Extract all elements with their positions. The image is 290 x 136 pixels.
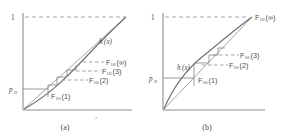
panel-a-curve-label: h (x) — [99, 38, 113, 46]
panel-b-f-three-arg: (3) — [251, 51, 260, 60]
panel-b-annotation-f-two: F 10 (2) — [229, 61, 248, 71]
panel-b-y-top-label: 1 — [151, 14, 155, 22]
panel-b-p0-sub: 0 — [154, 79, 157, 84]
panel-b-f-infinity-arg: (∞) — [266, 13, 276, 22]
panel-a-f-two-arg: (2) — [100, 76, 109, 85]
panel-b-curve-label-base: h — [177, 64, 181, 72]
panel-a-annotation-f-two: F 10 (2) — [89, 76, 108, 86]
panel-a-p0-sub: 0 — [14, 90, 17, 95]
panel-a-caption: (a) — [61, 123, 70, 132]
cobweb-figure-svg: 1 p 0 h (x) F 10 (∞) F 10 (3) — [0, 0, 290, 136]
panel-b-caption: (b) — [202, 123, 212, 132]
panel-b-f-infinity-sub: 10 — [260, 17, 266, 22]
panel-a-y-top-label: 1 — [11, 14, 15, 22]
panel-b-f-one-arg: (1) — [209, 76, 218, 85]
panel-a-p0-label: p 0 — [8, 86, 17, 95]
panel-b-f-one-sub: 10 — [203, 80, 209, 85]
panel-a-f-three-arg: (3) — [113, 67, 122, 76]
panel-a-annotation-f-one: F 10 (1) — [51, 92, 70, 102]
panel-a-f-infinity-arg: (∞) — [117, 58, 127, 67]
panel-b-p0-base: p — [148, 75, 153, 83]
panel-b-annotation-f-one: F 10 (1) — [198, 76, 217, 86]
panel-a-curve-label-base: h — [99, 38, 103, 46]
panel-a-curve-label-arg: (x) — [104, 38, 113, 46]
panel-b-f-two-arg: (2) — [240, 61, 249, 70]
panel-a-f-two-sub: 10 — [94, 80, 100, 85]
panel-a-f-one-sub: 10 — [56, 96, 62, 101]
panel-b-annotation-f-three: F 10 (3) — [240, 51, 259, 61]
panel-a-p0-base: p — [8, 86, 13, 94]
panel-b-p0-label: p 0 — [148, 75, 157, 84]
panel-a-f-one-arg: (1) — [62, 92, 71, 101]
panel-b: 1 p 0 h (x) F 10 (∞) F 10 (3) — [148, 13, 275, 133]
panel-b-curve-label: h (x) — [177, 64, 191, 72]
panel-a: 1 p 0 h (x) F 10 (∞) F 10 (3) — [8, 13, 132, 132]
panel-b-curve-label-arg: (x) — [182, 64, 191, 72]
panel-b-f-two-sub: 10 — [234, 65, 240, 70]
panel-a-x-tick-label: x — [94, 115, 98, 120]
figure-container: 1 p 0 h (x) F 10 (∞) F 10 (3) — [0, 0, 290, 136]
panel-b-annotation-f-infinity: F 10 (∞) — [255, 13, 275, 23]
